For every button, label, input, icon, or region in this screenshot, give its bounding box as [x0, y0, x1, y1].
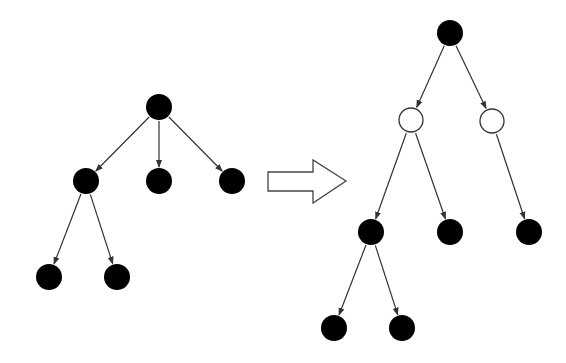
left-tree [36, 94, 245, 290]
right-tree-node-filled-R0 [437, 20, 463, 46]
left-tree-edge-L0-L1 [96, 117, 149, 171]
left-tree-edge-L1-L4 [54, 194, 81, 264]
right-tree-edge-R3-R6 [339, 245, 366, 315]
right-tree-node-hollow-R1 [399, 108, 423, 132]
left-tree-node-filled-L3 [219, 168, 245, 194]
left-tree-node-filled-L4 [36, 264, 62, 290]
right-tree-edge-R0-R1 [417, 46, 445, 107]
right-tree-node-filled-R3 [358, 219, 384, 245]
left-tree-node-filled-L0 [146, 94, 172, 120]
right-tree-edge-R1-R4 [416, 133, 446, 219]
right-tree [321, 20, 542, 341]
right-tree-edge-R0-R2 [456, 46, 486, 109]
right-tree-edge-R2-R5 [496, 134, 524, 218]
right-tree-edge-R1-R3 [376, 133, 407, 219]
left-tree-edge-L1-L5 [90, 194, 112, 263]
right-tree-node-filled-R6 [321, 315, 347, 341]
right-tree-node-filled-R4 [437, 219, 463, 245]
left-tree-edge-L0-L3 [169, 117, 222, 171]
left-tree-node-filled-L2 [146, 168, 172, 194]
tree-transformation-diagram [0, 0, 566, 363]
left-tree-node-filled-L5 [104, 264, 130, 290]
right-tree-node-hollow-R2 [480, 109, 504, 133]
right-tree-node-filled-R7 [389, 315, 415, 341]
right-tree-node-filled-R5 [516, 219, 542, 245]
left-tree-node-filled-L1 [73, 168, 99, 194]
right-tree-edge-R3-R7 [375, 245, 397, 314]
transform-arrow-icon [268, 160, 346, 203]
